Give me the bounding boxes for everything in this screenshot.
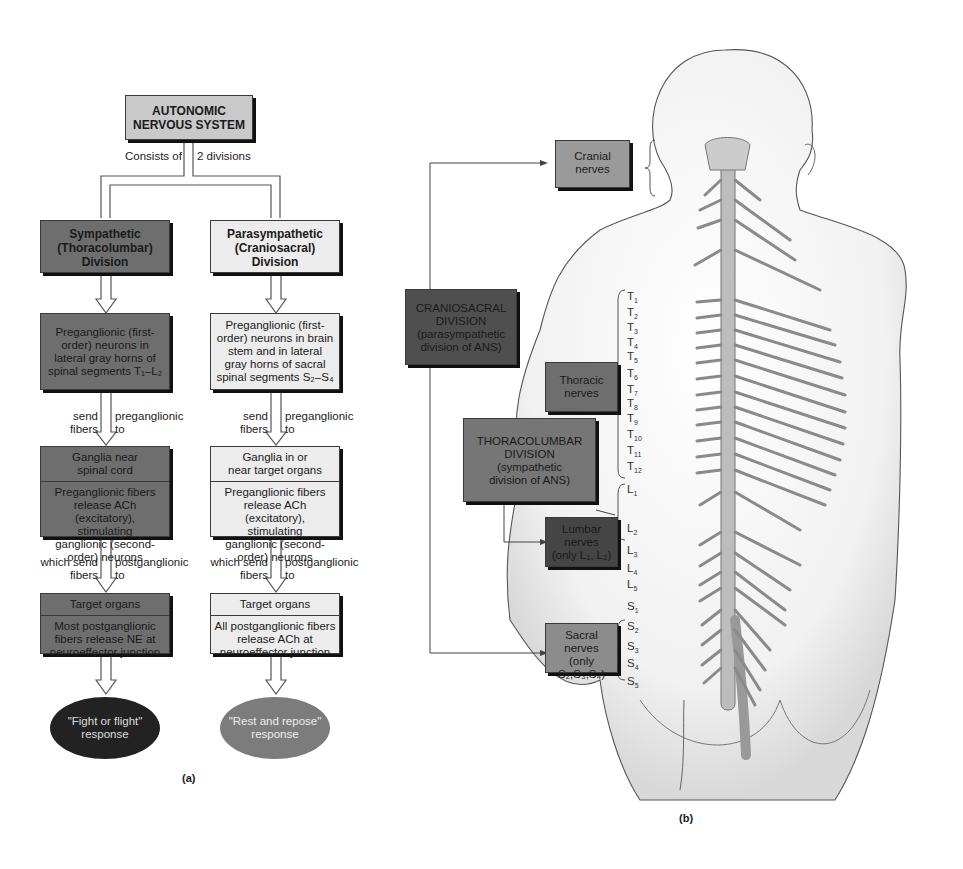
segment-label-t7: T7: [627, 383, 638, 397]
text-line: nerves: [546, 387, 617, 400]
text-line: CRANIOSACRAL: [406, 302, 516, 315]
cranial-nerves-box: Cranial nerves: [555, 140, 630, 188]
segment-label-t10: T10: [627, 428, 642, 442]
segment-label-t11: T11: [627, 444, 641, 458]
sacral-nerves-box: Sacral nerves (only S₂,S₃,S₄): [545, 623, 618, 673]
text-line: Cranial: [556, 150, 629, 163]
text-line: Sacral: [546, 629, 617, 642]
thoracolumbar-division-box: THORACOLUMBAR DIVISION (sympathetic divi…: [463, 418, 596, 502]
segment-label-s1: S1: [627, 600, 639, 614]
text-line: division of ANS): [464, 474, 595, 487]
segment-label-t4: T4: [627, 336, 638, 350]
segment-label-l5: L5: [627, 578, 637, 592]
text-line: nerves: [546, 536, 617, 549]
segment-label-t1: T1: [627, 290, 638, 304]
segment-label-t12: T12: [627, 460, 642, 474]
panel-b-caption: (b): [679, 812, 693, 824]
text-line: Lumbar: [546, 523, 617, 536]
text-line: THORACOLUMBAR: [464, 435, 595, 448]
segment-label-s4: S4: [627, 657, 639, 671]
text-line: nerves: [556, 163, 629, 176]
segment-label-t9: T9: [627, 412, 638, 426]
text-line: (sympathetic: [464, 461, 595, 474]
text-line: DIVISION: [464, 448, 595, 461]
text-line: nerves: [546, 642, 617, 655]
thoracic-nerves-box: Thoracic nerves: [545, 362, 618, 412]
craniosacral-to-cranial-line: [430, 163, 540, 289]
cranial-brace: [645, 140, 655, 196]
segment-label-s5: S5: [627, 675, 639, 689]
segment-label-s2: S2: [627, 620, 639, 634]
text-line: Thoracic: [546, 374, 617, 387]
segment-label-l3: L3: [627, 544, 637, 558]
text-line: (only L₁, L₂): [546, 549, 617, 562]
segment-label-t2: T2: [627, 306, 638, 320]
segment-label-l2: L2: [627, 522, 637, 536]
text-line: DIVISION: [406, 315, 516, 328]
text-line: (only S₂,S₃,S₄): [546, 655, 617, 681]
segment-label-t6: T6: [627, 367, 638, 381]
segment-label-t8: T8: [627, 397, 638, 411]
segment-label-s3: S3: [627, 640, 639, 654]
segment-label-t5: T5: [627, 350, 638, 364]
segment-label-t3: T3: [627, 321, 638, 335]
text-line: (parasympathetic: [406, 328, 516, 341]
segment-label-l4: L4: [627, 562, 637, 576]
text-line: division of ANS): [406, 341, 516, 354]
lumbar-nerves-box: Lumbar nerves (only L₁, L₂): [545, 517, 618, 567]
segment-label-l1: L1: [627, 483, 637, 497]
craniosacral-division-box: CRANIOSACRAL DIVISION (parasympathetic d…: [405, 289, 517, 365]
